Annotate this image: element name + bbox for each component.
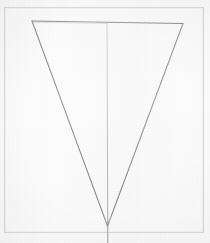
triangle-right-edge [108,24,184,227]
drawing-canvas: Inverted Triangle with Median Line [0,0,210,243]
triangle-left-edge [32,21,108,226]
vertical-median-line [107,22,108,243]
line-drawing [0,0,210,243]
apex-overshoot-left-stroke [105,217,108,228]
paper-border-rectangle [5,8,204,233]
paper-border-inner-shadow [6,9,203,232]
